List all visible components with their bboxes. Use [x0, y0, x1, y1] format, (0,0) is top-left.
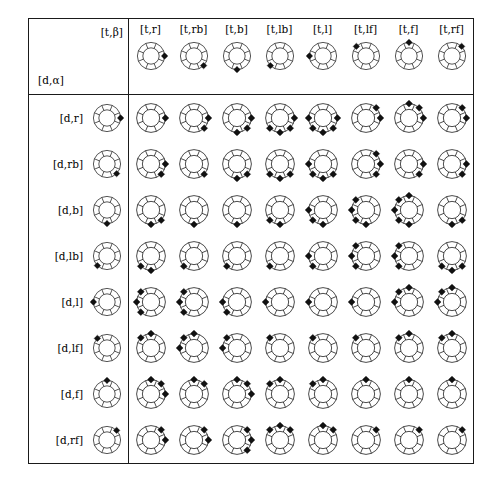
direction-ring-icon — [90, 193, 124, 227]
composition-cell — [387, 187, 430, 233]
composition-cell — [215, 95, 258, 141]
direction-ring-icon — [90, 147, 124, 181]
row-header-label: [d,b] — [58, 204, 83, 216]
row-cells — [129, 371, 473, 417]
composition-cell — [258, 95, 301, 141]
composition-cell — [430, 95, 473, 141]
column-header-label: [t,lf] — [354, 24, 377, 36]
composition-ring-icon — [219, 192, 255, 228]
composition-ring-icon — [219, 422, 255, 458]
table-row: [d,l] — [29, 279, 473, 325]
composition-cell — [344, 417, 387, 463]
composition-cell — [129, 279, 172, 325]
composition-cell — [258, 371, 301, 417]
composition-cell — [430, 325, 473, 371]
column-header-l: [t,l] — [301, 19, 344, 94]
composition-cell — [387, 371, 430, 417]
row-cells — [129, 417, 473, 463]
composition-ring-icon — [133, 192, 169, 228]
composition-cell — [344, 325, 387, 371]
composition-cell — [387, 279, 430, 325]
composition-ring-icon — [348, 284, 384, 320]
composition-ring-icon — [262, 330, 298, 366]
composition-ring-icon — [348, 238, 384, 274]
row-cells — [129, 187, 473, 233]
composition-cell — [258, 279, 301, 325]
table-row: [d,lf] — [29, 325, 473, 371]
composition-ring-icon — [434, 422, 470, 458]
composition-cell — [387, 325, 430, 371]
composition-ring-icon — [434, 146, 470, 182]
composition-cell — [344, 187, 387, 233]
composition-ring-icon — [305, 146, 341, 182]
composition-ring-icon — [391, 330, 427, 366]
direction-ring-icon — [90, 331, 124, 365]
composition-cell — [172, 371, 215, 417]
column-header-lb: [t,lb] — [258, 19, 301, 94]
row-header-f: [d,f] — [29, 371, 129, 417]
row-cells — [129, 325, 473, 371]
composition-cell — [301, 417, 344, 463]
composition-cell — [430, 371, 473, 417]
composition-cell — [129, 141, 172, 187]
column-header-rb: [t,rb] — [172, 19, 215, 94]
direction-ring-icon — [90, 101, 124, 135]
composition-ring-icon — [391, 284, 427, 320]
composition-cell — [430, 279, 473, 325]
column-header-label: [t,lb] — [267, 24, 293, 36]
composition-cell — [258, 325, 301, 371]
composition-cell — [172, 417, 215, 463]
row-cells — [129, 233, 473, 279]
composition-table: [t,β] [d,α] [t,r][t,rb][t,b][t,lb][t,l][… — [28, 18, 474, 464]
row-cells — [129, 95, 473, 141]
composition-ring-icon — [219, 238, 255, 274]
composition-ring-icon — [434, 376, 470, 412]
composition-ring-icon — [348, 192, 384, 228]
composition-ring-icon — [434, 192, 470, 228]
row-cells — [129, 141, 473, 187]
composition-ring-icon — [262, 238, 298, 274]
composition-cell — [172, 141, 215, 187]
row-header-label: [d,f] — [61, 388, 83, 400]
column-header-lf: [t,lf] — [344, 19, 387, 94]
composition-cell — [430, 187, 473, 233]
composition-cell — [301, 95, 344, 141]
direction-ring-icon — [263, 39, 297, 73]
composition-ring-icon — [262, 100, 298, 136]
composition-ring-icon — [434, 284, 470, 320]
composition-ring-icon — [305, 192, 341, 228]
column-header-rf: [t,rf] — [430, 19, 473, 94]
composition-cell — [301, 233, 344, 279]
composition-ring-icon — [133, 376, 169, 412]
direction-ring-icon — [392, 39, 426, 73]
composition-cell — [129, 233, 172, 279]
table-row: [d,b] — [29, 187, 473, 233]
composition-ring-icon — [133, 284, 169, 320]
table-row: [d,rf] — [29, 417, 473, 463]
row-header-label: [d,l] — [61, 296, 83, 308]
composition-cell — [387, 95, 430, 141]
composition-cell — [430, 141, 473, 187]
column-header-label: [t,r] — [140, 24, 161, 36]
row-header-label: [d,lf] — [58, 342, 84, 354]
column-header-b: [t,b] — [215, 19, 258, 94]
row-header-lb: [d,lb] — [29, 233, 129, 279]
column-header-r: [t,r] — [129, 19, 172, 94]
table-row: [d,lb] — [29, 233, 473, 279]
composition-ring-icon — [391, 238, 427, 274]
table-body: [d,r][d,rb][d,b][d,lb][d,l][d,lf][d,f][d… — [29, 95, 473, 463]
composition-cell — [129, 417, 172, 463]
composition-ring-icon — [434, 238, 470, 274]
composition-cell — [387, 417, 430, 463]
composition-ring-icon — [305, 100, 341, 136]
composition-ring-icon — [391, 376, 427, 412]
composition-cell — [215, 279, 258, 325]
composition-cell — [129, 371, 172, 417]
row-header-lf: [d,lf] — [29, 325, 129, 371]
composition-cell — [215, 417, 258, 463]
direction-ring-icon — [220, 39, 254, 73]
composition-ring-icon — [348, 100, 384, 136]
column-header-label: [t,b] — [225, 24, 247, 36]
composition-ring-icon — [305, 422, 341, 458]
direction-ring-icon — [177, 39, 211, 73]
